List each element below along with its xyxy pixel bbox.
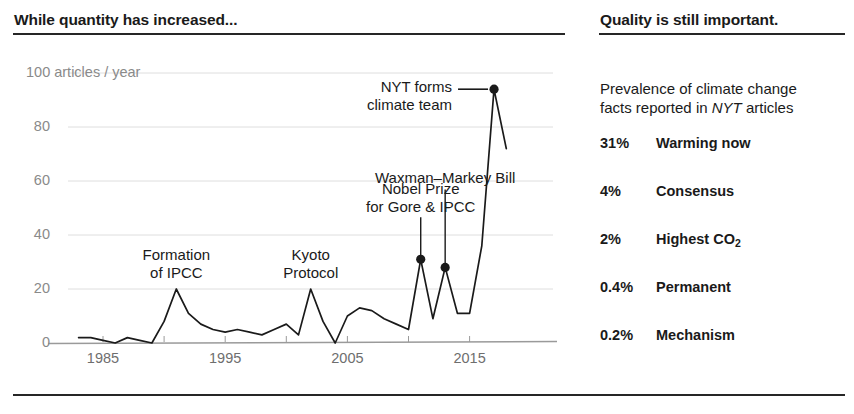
description-line-2-post: articles [742,99,794,116]
chart-annotation-kyoto-protocol: KyotoProtocol [241,246,381,281]
stat-row: 0.2%Mechanism [600,327,850,347]
chart-data-marker [416,255,425,264]
chart-y-tick-label: 60 [14,172,50,188]
stat-label: Permanent [656,279,731,295]
chart-x-tick-label: 1995 [195,350,255,366]
annotation-line-1: Kyoto [241,246,381,264]
description-line-2-pre: facts reported in [600,99,712,116]
chart-y-tick-label: 0 [14,334,50,350]
annotation-line-2: climate team [312,96,452,114]
page-title-right: Quality is still important. [600,11,778,29]
stat-label: Warming now [656,135,751,151]
stat-label: Mechanism [656,327,735,343]
chart-data-marker [489,85,498,94]
chart-y-tick-label: 80 [14,118,50,134]
chart-x-tick-label: 1985 [73,350,133,366]
annotation-line-2: Protocol [241,264,381,282]
annotation-line-1: Formation [106,246,246,264]
stat-percent: 2% [600,231,656,247]
quality-panel: Prevalence of climate change facts repor… [600,40,850,380]
annotation-line-1: NYT forms [312,78,452,96]
header-divider-left [13,33,565,35]
stat-label: Highest CO2 [656,231,741,247]
chart-annotation-waxman-markey-bill: Waxman–Markey Bill [345,169,545,187]
stat-percent: 31% [600,135,656,151]
stat-row: 31%Warming now [600,135,850,155]
chart-x-tickmarks [103,336,470,342]
stat-row: 4%Consensus [600,183,850,203]
stat-label-subscript: 2 [735,237,741,249]
description-line-1: Prevalence of climate change [600,80,797,97]
stat-row: 2%Highest CO2 [600,231,850,251]
chart-data-marker [441,263,450,272]
chart-y-tick-label: 20 [14,280,50,296]
stat-percent: 4% [600,183,656,199]
stat-percent: 0.2% [600,327,656,343]
stat-label: Consensus [656,183,734,199]
chart-y-tick-label: 40 [14,226,50,242]
panel-description: Prevalence of climate change facts repor… [600,79,850,117]
footer-divider [13,394,845,396]
stat-row: 0.4%Permanent [600,279,850,299]
chart-annotation-nyt-forms-climate-team: NYT formsclimate team [312,78,452,113]
chart-x-tick-label: 2015 [440,350,500,366]
page-title-left: While quantity has increased... [14,11,237,29]
chart-x-axis [48,342,557,344]
annotation-line-1: Waxman–Markey Bill [345,169,545,187]
annotation-line-2: for Gore & IPCC [321,198,521,216]
line-chart: 020406080100 articles / year 19851995200… [0,40,580,380]
chart-y-axis-unit-label: 100 articles / year [26,64,140,80]
header-divider-right [599,33,845,35]
stat-percent: 0.4% [600,279,656,295]
chart-annotation-formation-of-ipcc: Formationof IPCC [106,246,246,281]
annotation-line-2: of IPCC [106,264,246,282]
description-emphasis-nyt: NYT [712,99,742,116]
chart-x-tick-label: 2005 [317,350,377,366]
